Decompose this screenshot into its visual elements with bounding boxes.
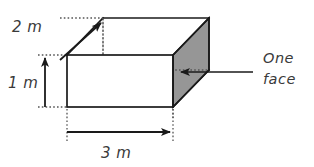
callout-label-line1: One [263,50,294,66]
width-dimension-label: 3 m [101,144,131,162]
callout-label-line2: face [263,71,296,87]
depth-dimension-label: 2 m [12,18,42,36]
front-face [67,55,173,107]
shaded-face [173,18,209,107]
cuboid-diagram: 2 m 1 m 3 m One face [0,0,314,167]
figure-container: 2 m 1 m 3 m One face [0,0,314,167]
height-dimension-label: 1 m [8,74,38,92]
